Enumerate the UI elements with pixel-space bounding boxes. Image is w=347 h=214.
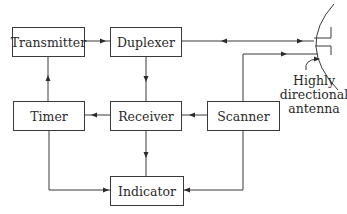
arrow-right-icon <box>100 39 106 44</box>
arrow-left-icon <box>184 188 190 193</box>
arrow-left-icon <box>221 39 227 44</box>
arrow-down-icon <box>144 76 149 82</box>
arrow-right-icon <box>281 52 287 57</box>
arrow-right-icon <box>103 188 109 193</box>
arrow-right-icon <box>297 39 303 44</box>
antenna-label-line-1: Highly <box>293 73 336 88</box>
block-indicator: Indicator <box>111 177 184 206</box>
arrow-up-icon <box>46 75 51 81</box>
arrow-left-icon <box>91 113 97 118</box>
wire-scanner-indicator <box>183 130 243 190</box>
arrow-down-icon <box>144 152 149 158</box>
antenna-label-line-2: directional <box>280 87 347 102</box>
block-label: Scanner <box>217 109 270 124</box>
antenna-label: Highly directional antenna <box>280 73 347 116</box>
block-duplexer: Duplexer <box>111 28 182 57</box>
wire-timer-indicator <box>49 130 110 190</box>
block-label: Transmitter <box>11 35 87 50</box>
block-label: Duplexer <box>117 35 175 50</box>
block-receiver: Receiver <box>111 102 182 131</box>
arrow-left-icon <box>189 113 195 118</box>
block-label: Timer <box>30 109 68 124</box>
block-label: Receiver <box>118 109 174 124</box>
block-scanner: Scanner <box>208 102 280 131</box>
block-label: Indicator <box>118 184 176 199</box>
block-transmitter: Transmitter <box>11 28 87 57</box>
radar-block-diagram: Highly directional antenna Transmitter D… <box>0 0 347 214</box>
antenna-label-line-3: antenna <box>288 101 340 116</box>
block-timer: Timer <box>14 102 85 131</box>
